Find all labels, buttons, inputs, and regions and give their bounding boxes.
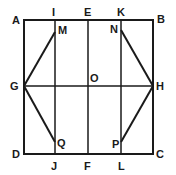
label-f: F — [84, 160, 91, 172]
label-k: K — [117, 6, 125, 18]
label-n: N — [110, 23, 118, 35]
segment-gq — [24, 86, 55, 142]
label-a: A — [12, 14, 20, 26]
geometry-diagram: A I E K B M N G O H Q P D J F L C — [0, 0, 176, 175]
segment-hn — [121, 30, 153, 86]
label-o: O — [90, 72, 99, 84]
label-c: C — [156, 148, 164, 160]
label-d: D — [12, 148, 20, 160]
label-j: J — [51, 160, 57, 172]
label-g: G — [10, 80, 19, 92]
label-b: B — [157, 13, 165, 25]
label-q: Q — [57, 137, 66, 149]
segment-hp — [121, 86, 153, 142]
label-h: H — [156, 80, 164, 92]
label-l: L — [118, 160, 125, 172]
segment-gm — [24, 32, 55, 86]
label-i: I — [52, 6, 55, 18]
inner-lines — [24, 20, 153, 154]
label-p: P — [112, 138, 119, 150]
label-m: M — [58, 24, 67, 36]
label-e: E — [84, 6, 91, 18]
